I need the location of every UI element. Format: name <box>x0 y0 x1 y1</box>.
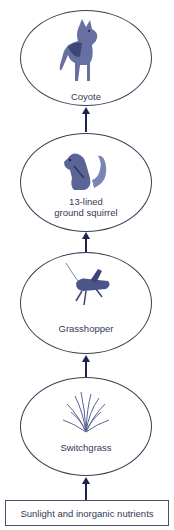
coyote-icon <box>21 17 151 87</box>
grass-icon <box>21 390 151 434</box>
node-ground-squirrel: 13-lined ground squirrel <box>20 133 152 232</box>
node-grasshopper: Grasshopper <box>20 252 152 354</box>
arrow-up-icon <box>85 482 87 500</box>
node-label: Coyote <box>21 91 151 102</box>
node-label-line2: ground squirrel <box>21 207 151 218</box>
node-label: Grasshopper <box>21 323 151 334</box>
source-label: Sunlight and inorganic nutrients <box>20 508 153 519</box>
grasshopper-icon <box>21 261 151 307</box>
node-label: Switchgrass <box>21 442 151 453</box>
arrow-up-icon <box>85 237 87 252</box>
arrow-up-icon <box>85 112 87 132</box>
source-box: Sunlight and inorganic nutrients <box>5 500 169 526</box>
node-switchgrass: Switchgrass <box>20 377 152 476</box>
node-coyote: Coyote <box>20 10 152 106</box>
squirrel-icon <box>21 148 151 194</box>
arrow-up-icon <box>85 360 87 377</box>
node-label-line1: 13-lined <box>21 196 151 207</box>
